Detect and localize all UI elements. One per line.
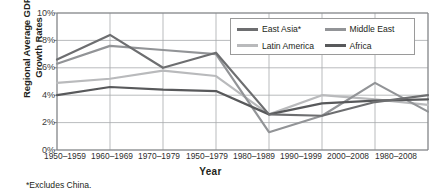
y-tick-label: 6% (29, 63, 55, 72)
legend-label-africa: Africa (350, 41, 372, 51)
chart-footnote: *Excludes China. (26, 180, 91, 190)
legend-label-middle-east: Middle East (350, 24, 395, 34)
legend-item-latin-america: Latin America (237, 41, 325, 51)
y-tick-label: 8% (29, 36, 55, 45)
legend-label-latin-america: Latin America (262, 41, 314, 51)
x-tick-label: 1980–2008 (351, 152, 441, 161)
series-line-middle-east (57, 46, 428, 132)
series-line-africa (57, 87, 428, 114)
legend-swatch-latin-america (237, 44, 258, 47)
x-axis-title-text: Year (199, 166, 221, 177)
x-axis-title: Year (0, 166, 447, 177)
legend-swatch-middle-east (325, 28, 346, 31)
legend-item-east-asia: East Asia* (237, 24, 325, 34)
gdp-growth-rates-chart: Regional Average GDP Growth Rates 10% 8%… (0, 0, 447, 194)
legend-label-east-asia: East Asia* (262, 24, 301, 34)
chart-legend: East Asia* Middle East Latin America Afr… (230, 18, 415, 55)
legend-item-middle-east: Middle East (325, 24, 413, 34)
y-axis-tick-labels: 10% 8% 6% 4% 2% 0% (29, 0, 55, 194)
y-tick-label: 4% (29, 91, 55, 100)
legend-swatch-east-asia (237, 28, 258, 31)
y-tick-label: 2% (29, 118, 55, 127)
legend-swatch-africa (325, 44, 346, 47)
legend-item-africa: Africa (325, 41, 413, 51)
y-tick-label: 10% (29, 9, 55, 18)
